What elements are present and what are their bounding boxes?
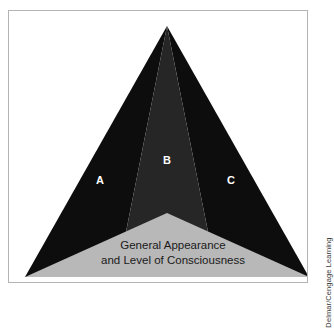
section-b-label: B: [163, 154, 171, 166]
section-c-label: C: [227, 174, 235, 186]
section-a-label: A: [96, 174, 104, 186]
attribution-text: Delmar/Cengage Learning: [324, 237, 333, 327]
triangle-diagram: A B C General Appearance and Level of Co…: [9, 11, 308, 283]
attribution: Delmar/Cengage Learning: [323, 177, 333, 287]
base-caption-line-1: General Appearance: [120, 239, 226, 251]
figure-frame: A B C General Appearance and Level of Co…: [8, 10, 308, 283]
base-caption-line-2: and Level of Consciousness: [101, 254, 245, 266]
